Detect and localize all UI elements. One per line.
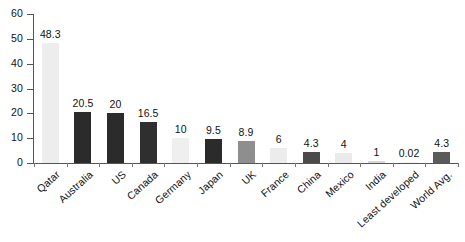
y-tick: 30	[27, 89, 33, 90]
x-axis-label-text: France	[258, 168, 291, 199]
y-tick: 40	[27, 64, 33, 65]
x-axis-label-text: India	[363, 168, 388, 192]
bar-value-label: 10	[175, 123, 187, 135]
x-axis-label-text: US	[109, 168, 128, 187]
y-tick-label: 20	[11, 106, 23, 119]
x-axis-label-text: China	[294, 168, 323, 196]
bar-value-label: 6	[276, 133, 282, 145]
y-tick: 0	[27, 163, 33, 164]
x-axis-label-text: UK	[239, 168, 258, 187]
y-tick-label: 50	[11, 32, 23, 45]
x-tick	[34, 163, 35, 167]
bar-value-label: 16.5	[138, 107, 159, 119]
plot-area: 48.320.52016.5109.58.964.3410.024.3	[34, 14, 458, 163]
y-tick: 10	[27, 138, 33, 139]
bar-value-label: 4	[341, 138, 347, 150]
bar-value-label: 20.5	[73, 97, 94, 109]
bar-value-label: 20	[110, 98, 122, 110]
y-tick-label: 10	[11, 131, 23, 144]
y-tick: 60	[27, 14, 33, 15]
x-axis-label-text: Japan	[196, 168, 226, 196]
bar: 16.5	[140, 122, 157, 163]
y-tick-label: 40	[11, 57, 23, 70]
bar-chart: 0102030405060 48.320.52016.5109.58.964.3…	[0, 0, 465, 242]
bar: 48.3	[42, 43, 59, 163]
bar-value-label: 9.5	[206, 124, 221, 136]
y-tick: 50	[27, 39, 33, 40]
bar-value-label: 48.3	[40, 28, 61, 40]
x-axis-label-text: Qatar	[34, 168, 62, 195]
y-tick-label: 0	[17, 156, 23, 169]
y-tick-label: 60	[11, 7, 23, 20]
y-tick-label: 30	[11, 82, 23, 95]
bar-value-label: 8.9	[239, 126, 254, 138]
y-tick: 20	[27, 113, 33, 114]
bar: 6	[270, 148, 287, 163]
